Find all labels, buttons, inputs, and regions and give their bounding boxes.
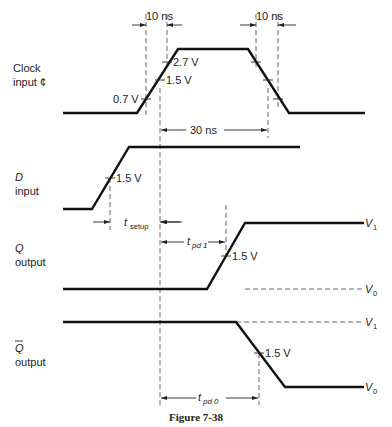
q-waveform [63, 223, 364, 289]
clock-0.7v-label: 0.7 V [113, 93, 139, 105]
qbar-label-2: output [15, 356, 46, 368]
t-pd0-label: t [198, 391, 202, 403]
t-pd1-label: t [187, 235, 191, 247]
figure-caption: Figure 7-38 [169, 411, 223, 423]
timing-diagram: Clock input ¢ D input Q output Q output … [0, 0, 392, 427]
qbar-waveform [63, 322, 364, 387]
q-label-2: output [15, 256, 46, 268]
clock-label: Clock [13, 62, 41, 74]
q-label: Q [15, 242, 24, 254]
clock-waveform [63, 49, 365, 113]
d-waveform [63, 147, 300, 209]
d-label: D [15, 171, 23, 183]
qbar-label: Q [15, 342, 24, 354]
d-label-2: input [15, 185, 39, 197]
fall-time-label: 10 ns [256, 10, 283, 22]
t-pd1-subscript: pd 1 [191, 241, 208, 250]
q-v0-subscript: 0 [373, 289, 377, 298]
clock-2.7v-label: 2.7 V [173, 56, 199, 68]
pulse-width-label: 30 ns [190, 124, 217, 136]
clock-label-2: input ¢ [13, 76, 46, 88]
t-setup-subscript: setup [130, 222, 148, 231]
d-1.5v-label: 1.5 V [116, 172, 142, 184]
rise-time-label: 10 ns [146, 10, 173, 22]
q-1.5v-label: 1.5 V [232, 250, 258, 262]
t-setup-label: t [124, 216, 128, 228]
clock-1.5v-label: 1.5 V [166, 74, 192, 86]
q-v1-subscript: 1 [373, 223, 377, 232]
qbar-1.5v-label: 1.5 V [265, 347, 291, 359]
t-pd0-subscript: pd 0 [202, 397, 219, 406]
qbar-v1-subscript: 1 [373, 322, 377, 331]
qbar-v0-subscript: 0 [373, 387, 377, 396]
